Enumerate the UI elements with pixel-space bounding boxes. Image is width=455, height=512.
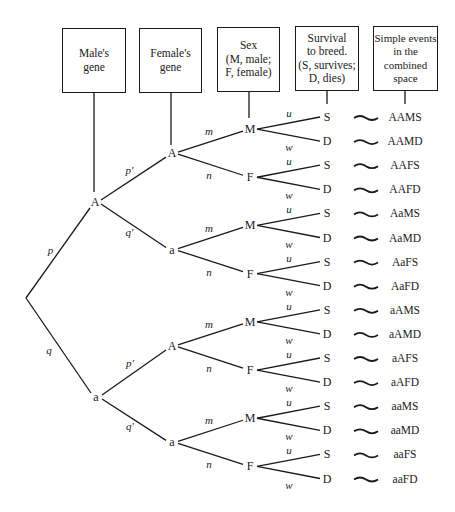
survival-node: S <box>324 399 331 413</box>
branch-prob-label: w <box>285 430 293 442</box>
simple-event-label: aAMD <box>389 328 421 340</box>
survival-node: D <box>323 375 332 389</box>
correspondence-tilde-icon <box>354 309 378 313</box>
sex-node: M <box>245 122 256 136</box>
sex-node: F <box>247 459 254 473</box>
sex-node: M <box>245 218 256 232</box>
correspondence-tilde-icon <box>354 164 378 168</box>
correspondence-tilde-icon <box>354 237 378 241</box>
correspondence-tilde-icon <box>354 212 378 216</box>
male-gene-node: A <box>91 195 100 209</box>
male-gene-node: a <box>93 390 99 404</box>
branch-female-a <box>102 399 166 440</box>
correspondence-tilde-icon <box>354 381 378 385</box>
correspondence-tilde-icon <box>354 261 378 265</box>
branch-prob-label: p′ <box>125 357 135 369</box>
survival-node: S <box>324 206 331 220</box>
probability-tree: pAp′AmMuSAAMSwDAAMDnFuSAAFSwDAAFDq′amMuS… <box>0 0 455 512</box>
branch-prob-label: n <box>206 458 212 470</box>
simple-event-label: aaMS <box>392 400 419 412</box>
branch-prob-label: m <box>205 222 213 234</box>
branch-prob-label: w <box>285 334 293 346</box>
correspondence-tilde-icon <box>354 333 378 337</box>
female-gene-node: a <box>169 243 175 257</box>
correspondence-tilde-icon <box>354 478 378 482</box>
branch-prob-label: n <box>206 362 212 374</box>
survival-node: S <box>324 447 331 461</box>
branch-prob-label: n <box>206 169 212 181</box>
branch-prob-label: q′ <box>126 226 135 238</box>
female-gene-node: a <box>169 435 175 449</box>
simple-event-label: AAFS <box>390 159 419 171</box>
branch-prob-label: p <box>47 244 54 256</box>
survival-node: D <box>323 423 332 437</box>
simple-event-label: AaMD <box>389 232 421 244</box>
branch-prob-label: m <box>205 414 213 426</box>
branch-prob-label: u <box>286 107 292 119</box>
simple-event-label: AAMD <box>387 135 422 147</box>
branch-prob-label: w <box>285 479 293 491</box>
branch-prob-label: n <box>206 266 212 278</box>
survival-node: S <box>324 158 331 172</box>
female-gene-node: A <box>168 146 177 160</box>
branch-female-A <box>102 350 166 395</box>
branch-prob-label: u <box>286 396 292 408</box>
sex-node: M <box>245 315 256 329</box>
branch-prob-label: m <box>205 318 213 330</box>
branch-survival-D <box>257 225 320 237</box>
survival-node: D <box>323 279 332 293</box>
branch-prob-label: u <box>286 252 292 264</box>
survival-node: D <box>323 327 332 341</box>
branch-prob-label: u <box>286 300 292 312</box>
survival-node: S <box>324 110 331 124</box>
branch-root-A <box>26 208 90 298</box>
correspondence-tilde-icon <box>354 140 378 144</box>
simple-event-label: aaFS <box>394 448 417 460</box>
sex-node: M <box>245 411 256 425</box>
branch-prob-label: m <box>205 125 213 137</box>
branch-prob-label: w <box>285 286 293 298</box>
sex-node: F <box>247 267 254 281</box>
sex-node: F <box>247 363 254 377</box>
branch-prob-label: q <box>46 344 52 356</box>
branch-survival-D <box>257 129 320 141</box>
branch-female-a <box>101 204 166 248</box>
simple-event-label: AaFD <box>391 280 419 292</box>
simple-event-label: aAFD <box>391 376 419 388</box>
correspondence-tilde-icon <box>354 285 378 289</box>
branch-root-a <box>26 298 91 393</box>
correspondence-tilde-icon <box>354 405 378 409</box>
branch-prob-label: p′ <box>125 164 135 176</box>
survival-node: S <box>324 255 331 269</box>
survival-node: S <box>324 303 331 317</box>
correspondence-tilde-icon <box>354 429 378 433</box>
sex-node: F <box>247 170 254 184</box>
female-gene-node: A <box>168 339 177 353</box>
correspondence-tilde-icon <box>354 116 378 120</box>
branch-survival-D <box>257 177 320 189</box>
branch-prob-label: w <box>285 189 293 201</box>
simple-event-label: AAMS <box>388 111 421 123</box>
branch-prob-label: w <box>285 141 293 153</box>
correspondence-tilde-icon <box>354 188 378 192</box>
branch-survival-D <box>257 370 320 382</box>
correspondence-tilde-icon <box>354 357 378 361</box>
branch-prob-label: u <box>286 155 292 167</box>
branch-prob-label: q′ <box>126 420 135 432</box>
survival-node: D <box>323 231 332 245</box>
survival-node: D <box>323 472 332 486</box>
simple-event-label: AaMS <box>390 207 420 219</box>
simple-event-label: aaFD <box>393 473 418 485</box>
simple-event-label: AaFS <box>392 256 418 268</box>
branch-survival-D <box>257 466 320 478</box>
simple-event-label: aaMD <box>391 424 420 436</box>
correspondence-tilde-icon <box>354 453 378 457</box>
branch-survival-D <box>257 322 320 334</box>
survival-node: D <box>323 134 332 148</box>
branch-female-A <box>101 157 166 200</box>
simple-event-label: aAFS <box>392 352 418 364</box>
simple-event-label: AAFD <box>389 183 420 195</box>
survival-node: S <box>324 351 331 365</box>
branch-survival-D <box>257 418 320 430</box>
branch-prob-label: u <box>286 444 292 456</box>
